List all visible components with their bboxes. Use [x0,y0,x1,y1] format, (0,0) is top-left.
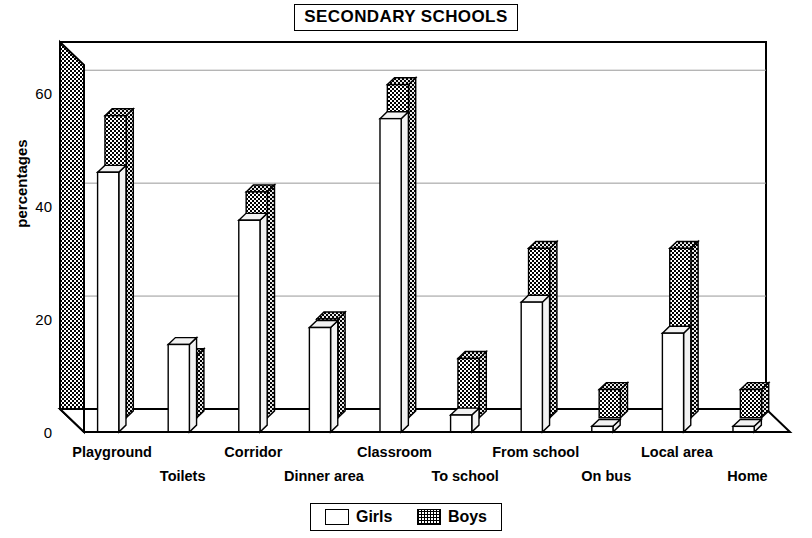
legend-label-boys: Boys [448,508,487,526]
bar-girls-9 [733,419,761,432]
x-axis-label-classroom: Classroom [357,444,432,460]
bar-girls-8 [662,326,690,432]
bar-girls-1 [168,338,196,432]
y-tick-label-20: 20 [35,311,52,328]
x-axis-label-dinner-area: Dinner area [284,468,364,484]
x-axis-label-local-area: Local area [641,444,713,460]
y-tick-label-40: 40 [35,198,52,215]
x-axis-label-playground: Playground [72,444,152,460]
bar-girls-3 [309,321,337,432]
bar-girls-6 [521,295,549,432]
bar-girls-2 [239,213,267,432]
legend-entry-boys: Boys [417,508,487,526]
bar-girls-0 [98,165,126,432]
bar-girls-7 [592,419,620,432]
legend: Girls Boys [310,503,502,531]
y-tick-label-0: 0 [44,424,52,441]
x-axis-label-to-school: To school [431,468,498,484]
x-axis-label-corridor: Corridor [224,444,282,460]
y-tick-label-60: 60 [35,85,52,102]
bar-boys-7 [599,383,627,418]
legend-entry-girls: Girls [325,508,392,526]
legend-swatch-girls-icon [325,509,349,525]
chart-geometry [60,42,790,432]
bar-girls-4 [380,112,408,432]
bar-boys-9 [740,383,768,418]
y-axis-title: percentages [13,99,30,269]
legend-swatch-boys-icon [417,509,441,525]
legend-container: Girls Boys [0,503,812,531]
x-axis-label-from-school: From school [492,444,579,460]
x-axis-label-home: Home [727,468,767,484]
y-axis-tick-labels: 0204060 [35,85,52,441]
legend-label-girls: Girls [356,508,392,526]
x-axis-labels: PlaygroundToiletsCorridorDinner areaClas… [0,444,812,496]
x-axis-label-on-bus: On bus [581,468,631,484]
x-axis-label-toilets: Toilets [160,468,206,484]
bar-girls-5 [451,408,479,432]
